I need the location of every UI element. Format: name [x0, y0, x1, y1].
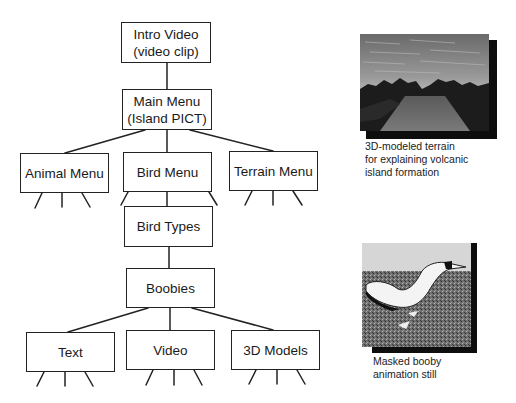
node-boobies: Boobies [126, 268, 215, 308]
booby-image [362, 235, 471, 347]
node-bird-types: Bird Types [124, 206, 213, 247]
node-bird-menu-label: Bird Menu [137, 164, 199, 181]
node-animal-menu: Animal Menu [20, 153, 109, 193]
node-main-menu: Main Menu (Island PICT) [122, 89, 212, 130]
node-intro-video: Intro Video (video clip) [121, 22, 211, 63]
node-3d-models-label: 3D Models [243, 342, 308, 359]
booby-caption-line-1: Masked booby [373, 355, 441, 368]
node-text: Text [26, 332, 115, 372]
node-main-menu-title: Main Menu [134, 93, 201, 110]
node-main-menu-subtitle: (Island PICT) [127, 110, 207, 127]
terrain-caption-line-1: 3D-modeled terrain [365, 140, 468, 153]
terrain-figure [360, 34, 497, 139]
node-terrain-menu: Terrain Menu [229, 151, 318, 191]
booby-figure [362, 235, 477, 353]
node-intro-video-subtitle: (video clip) [133, 43, 198, 60]
node-video-label: Video [153, 342, 187, 359]
terrain-image [360, 34, 489, 131]
node-text-label: Text [58, 344, 83, 361]
terrain-caption-line-3: island formation [365, 166, 468, 179]
node-bird-types-label: Bird Types [137, 218, 201, 235]
terrain-caption: 3D-modeled terrain for explaining volcan… [365, 140, 468, 179]
booby-caption: Masked booby animation still [373, 355, 441, 381]
node-intro-video-title: Intro Video [133, 26, 198, 43]
node-3d-models: 3D Models [231, 330, 320, 370]
node-boobies-label: Boobies [146, 280, 195, 297]
booby-caption-line-2: animation still [373, 368, 441, 381]
node-video: Video [126, 330, 215, 370]
node-terrain-menu-label: Terrain Menu [234, 163, 313, 180]
node-animal-menu-label: Animal Menu [25, 165, 104, 182]
node-bird-menu: Bird Menu [123, 152, 212, 192]
terrain-caption-line-2: for explaining volcanic [365, 153, 468, 166]
